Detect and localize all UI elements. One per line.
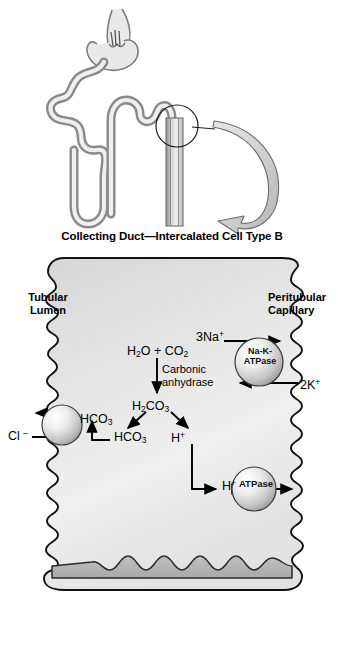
- nak-line1: Na-K-: [248, 346, 272, 356]
- tubular-lumen-line2: Lumen: [30, 304, 66, 316]
- nephron-schematic: [50, 9, 278, 234]
- ca-line2: anhydrase: [162, 376, 213, 388]
- reaction-substrates: H2O + CO2: [127, 344, 188, 359]
- nak-line2: ATPase: [244, 356, 276, 366]
- peritubular-line2: Capillary: [268, 304, 314, 316]
- carbonic-acid-label: H2CO3: [132, 399, 169, 414]
- callout-arrow: [213, 121, 279, 234]
- proton-atpase-sphere: [232, 467, 276, 511]
- proximal-convoluted-tubule: [50, 62, 105, 224]
- tubular-lumen-label: Tubular Lumen: [12, 291, 84, 317]
- glomerulus-icon: [87, 9, 138, 70]
- potassium-label: 2K+: [300, 377, 320, 392]
- lumen-bicarbonate-label: HCO3: [80, 412, 113, 427]
- carbonic-anhydrase-label: Carbonic anhydrase: [162, 363, 213, 388]
- figure-title: Collecting Duct—Intercalated Cell Type B: [0, 230, 344, 242]
- collecting-duct: [166, 118, 183, 226]
- na-k-atpase-label: Na-K- ATPase: [232, 346, 288, 366]
- intercalated-cell-type-b-figure: [0, 0, 344, 649]
- anion-exchanger-sphere: [42, 405, 82, 445]
- cytosol-proton-label: H+: [171, 430, 185, 445]
- ca-line1: Carbonic: [162, 363, 206, 375]
- peritubular-capillary-label: Peritubular Capillary: [268, 291, 344, 317]
- chloride-label: Cl –: [8, 428, 28, 443]
- peritubular-line1: Peritubular: [268, 291, 326, 303]
- proton-atpase-label: ATPase: [232, 479, 280, 489]
- tubular-lumen-line1: Tubular: [28, 291, 68, 303]
- sodium-label: 3Na+: [196, 329, 224, 344]
- cytosol-bicarbonate-label: HCO3: [114, 430, 147, 445]
